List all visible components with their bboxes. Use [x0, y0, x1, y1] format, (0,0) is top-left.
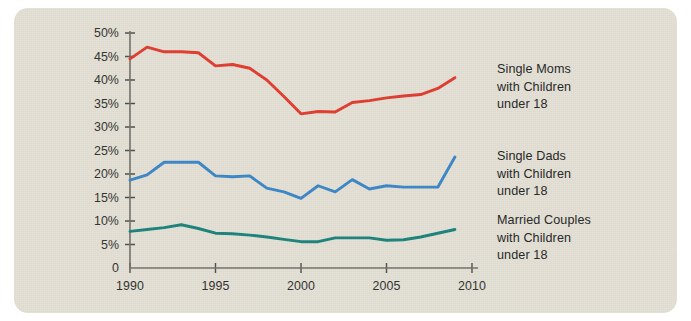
- x-tick-label: 1990: [116, 279, 144, 293]
- series-line-2: [130, 225, 455, 242]
- legend-label-line: with Children: [496, 80, 571, 94]
- legend-label-line: with Children: [496, 167, 571, 181]
- legend-label-line: Single Dads: [497, 149, 566, 163]
- x-tick-label: 1995: [202, 279, 230, 293]
- y-tick-label: 30%: [94, 120, 119, 134]
- y-tick-label: 10%: [94, 214, 119, 228]
- axes-group: [130, 31, 478, 268]
- legend-entry-1: Single Dadswith Childrenunder 18: [496, 149, 571, 198]
- y-tick-label: 35%: [94, 97, 119, 111]
- y-tick-label: 40%: [94, 73, 119, 87]
- legend-entry-0: Single Momswith Childrenunder 18: [496, 62, 571, 111]
- x-tick-label: 2005: [373, 279, 401, 293]
- y-tick-label: 15%: [94, 191, 119, 205]
- series-paths-group: [130, 47, 455, 242]
- legend-label-line: Married Couples: [497, 213, 591, 227]
- legend-label-line: Single Moms: [497, 62, 571, 76]
- legend-label-line: under 18: [497, 184, 548, 198]
- y-tick-label: 50%: [94, 26, 119, 40]
- x-axis-tick-labels: 19901995200020052010: [116, 279, 486, 293]
- legend-entry-2: Married Coupleswith Childrenunder 18: [496, 213, 591, 262]
- series-line-1: [130, 157, 455, 198]
- x-tick-label: 2000: [287, 279, 315, 293]
- x-tick-label: 2010: [458, 279, 486, 293]
- y-tick-label: 0: [112, 261, 119, 275]
- legend-label-line: under 18: [497, 248, 548, 262]
- legend-label-line: with Children: [496, 231, 571, 245]
- y-tick-label: 5%: [101, 238, 119, 252]
- y-axis-tick-labels: 05%10%15%20%25%30%35%40%45%50%: [94, 26, 119, 275]
- legend-group: Single Momswith Childrenunder 18Single D…: [496, 62, 591, 262]
- y-tick-label: 25%: [94, 144, 119, 158]
- line-chart: 05%10%15%20%25%30%35%40%45%50% 199019952…: [14, 8, 677, 313]
- y-tick-label: 45%: [94, 50, 119, 64]
- y-tick-label: 20%: [94, 167, 119, 181]
- legend-label-line: under 18: [497, 97, 548, 111]
- chart-card: 05%10%15%20%25%30%35%40%45%50% 199019952…: [14, 8, 677, 313]
- series-line-0: [130, 47, 455, 114]
